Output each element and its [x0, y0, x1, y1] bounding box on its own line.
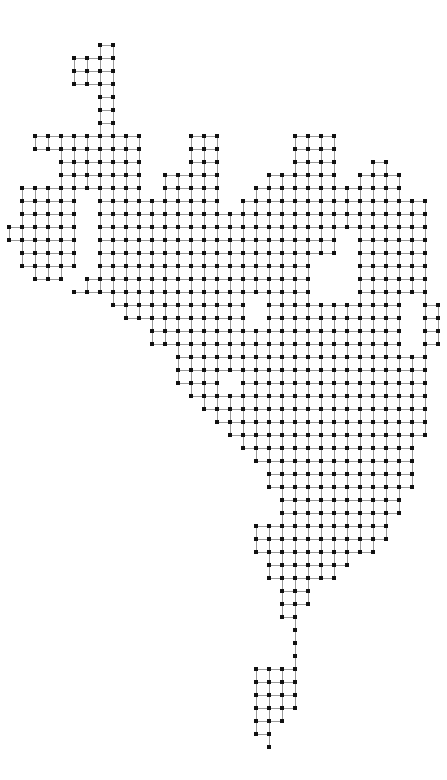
- lattice-node: [124, 238, 128, 242]
- lattice-node: [358, 355, 362, 359]
- lattice-node: [358, 186, 362, 190]
- lattice-node: [293, 706, 297, 710]
- lattice-node: [293, 290, 297, 294]
- lattice-node: [98, 277, 102, 281]
- lattice-node: [319, 199, 323, 203]
- lattice-node: [397, 472, 401, 476]
- lattice-node: [189, 394, 193, 398]
- lattice-node: [306, 446, 310, 450]
- lattice-node: [176, 303, 180, 307]
- lattice-node: [371, 433, 375, 437]
- lattice-node: [163, 342, 167, 346]
- lattice-node: [306, 160, 310, 164]
- lattice-node: [33, 147, 37, 151]
- lattice-node: [241, 212, 245, 216]
- lattice-node: [384, 485, 388, 489]
- lattice-node: [150, 290, 154, 294]
- lattice-node: [410, 433, 414, 437]
- lattice-node: [306, 329, 310, 333]
- lattice-node: [332, 147, 336, 151]
- lattice-node: [384, 303, 388, 307]
- lattice-node: [215, 368, 219, 372]
- lattice-node: [202, 277, 206, 281]
- lattice-node: [319, 550, 323, 554]
- lattice-node: [267, 524, 271, 528]
- lattice-node: [423, 420, 427, 424]
- lattice-node: [332, 550, 336, 554]
- lattice-node: [254, 693, 258, 697]
- lattice-node: [85, 160, 89, 164]
- lattice-node: [267, 680, 271, 684]
- lattice-node: [358, 290, 362, 294]
- lattice-node: [384, 511, 388, 515]
- lattice-node: [384, 368, 388, 372]
- lattice-node: [384, 225, 388, 229]
- lattice-node: [306, 498, 310, 502]
- lattice-node: [72, 134, 76, 138]
- lattice-node: [254, 368, 258, 372]
- lattice-node: [137, 186, 141, 190]
- lattice-node: [241, 251, 245, 255]
- lattice-node: [345, 446, 349, 450]
- lattice-node: [358, 394, 362, 398]
- lattice-node: [267, 342, 271, 346]
- lattice-node: [423, 290, 427, 294]
- lattice-node: [254, 186, 258, 190]
- lattice-node: [423, 394, 427, 398]
- lattice-node: [280, 290, 284, 294]
- lattice-node: [176, 212, 180, 216]
- lattice-node: [332, 381, 336, 385]
- lattice-node: [410, 355, 414, 359]
- lattice-node: [228, 277, 232, 281]
- lattice-node: [111, 121, 115, 125]
- lattice-node: [332, 134, 336, 138]
- lattice-node: [306, 485, 310, 489]
- lattice-node: [410, 251, 414, 255]
- lattice-node: [293, 225, 297, 229]
- lattice-node: [319, 563, 323, 567]
- lattice-node: [345, 524, 349, 528]
- lattice-node: [345, 199, 349, 203]
- lattice-node: [358, 264, 362, 268]
- lattice-node: [124, 199, 128, 203]
- lattice-node: [319, 459, 323, 463]
- lattice-node: [293, 563, 297, 567]
- lattice-node: [410, 264, 414, 268]
- lattice-node: [358, 485, 362, 489]
- lattice-node: [98, 225, 102, 229]
- lattice-node: [384, 186, 388, 190]
- lattice-node: [293, 212, 297, 216]
- lattice-node: [150, 251, 154, 255]
- lattice-node: [163, 225, 167, 229]
- lattice-node: [371, 459, 375, 463]
- lattice-node: [254, 407, 258, 411]
- lattice-node: [293, 459, 297, 463]
- lattice-node: [280, 303, 284, 307]
- lattice-node: [150, 277, 154, 281]
- lattice-node: [319, 394, 323, 398]
- lattice-node: [111, 95, 115, 99]
- lattice-node: [358, 459, 362, 463]
- lattice-node: [293, 615, 297, 619]
- lattice-node: [280, 225, 284, 229]
- lattice-node: [319, 251, 323, 255]
- lattice-node: [358, 472, 362, 476]
- lattice-node: [306, 316, 310, 320]
- lattice-node: [72, 147, 76, 151]
- lattice-node: [358, 173, 362, 177]
- lattice-node: [59, 186, 63, 190]
- lattice-node: [46, 251, 50, 255]
- lattice-node: [332, 394, 336, 398]
- lattice-node: [163, 329, 167, 333]
- lattice-node: [280, 251, 284, 255]
- lattice-node: [215, 186, 219, 190]
- lattice-node: [176, 186, 180, 190]
- lattice-node: [215, 355, 219, 359]
- lattice-node: [267, 303, 271, 307]
- lattice-node: [124, 134, 128, 138]
- lattice-node: [215, 420, 219, 424]
- lattice-node: [358, 316, 362, 320]
- lattice-node: [267, 420, 271, 424]
- lattice-node: [410, 407, 414, 411]
- lattice-node: [319, 485, 323, 489]
